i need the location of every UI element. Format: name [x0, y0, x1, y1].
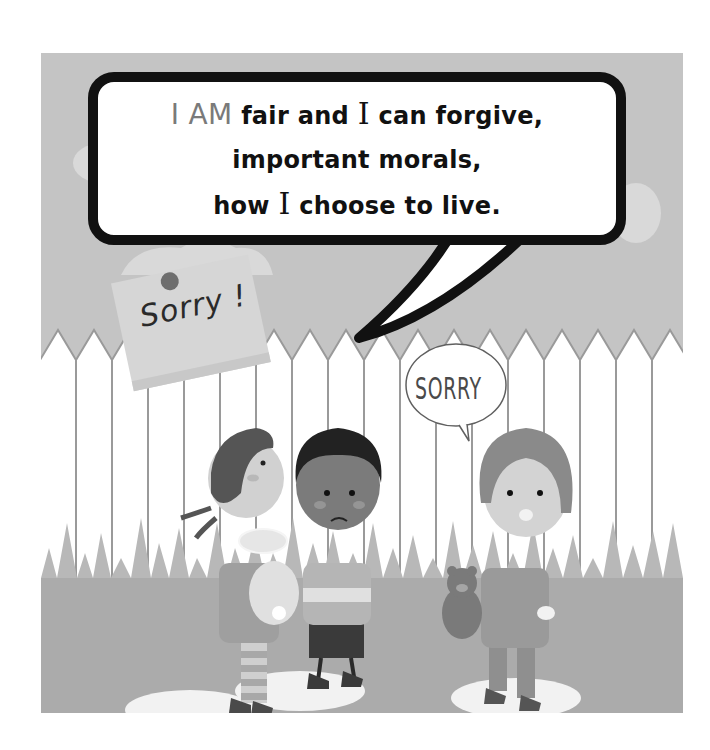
illustration-canvas: I AM fair and I can forgive, important m…: [41, 53, 683, 713]
speech-bubble: I AM fair and I can forgive, important m…: [88, 72, 626, 245]
bubble-line-2: important morals,: [98, 138, 616, 182]
child-speech-text: SORRY: [415, 371, 482, 406]
bubble-line-3: how I choose to live.: [98, 182, 616, 228]
i-am-text: I AM: [171, 98, 233, 131]
bubble-line-1: I AM fair and I can forgive,: [98, 92, 616, 138]
